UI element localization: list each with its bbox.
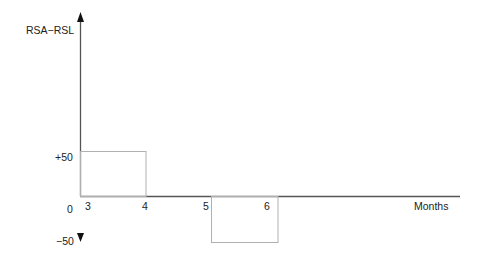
x-tick-5: 5 (203, 201, 209, 212)
positive-gap-box (81, 152, 147, 197)
x-axis-label: Months (414, 201, 448, 212)
up-arrow-icon (77, 12, 84, 22)
y-tick-pos50: +50 (55, 152, 73, 163)
y-tick-zero: 0 (67, 204, 73, 215)
down-arrow-icon (77, 233, 84, 242)
y-tick-neg50: −50 (56, 236, 74, 247)
x-tick-6: 6 (264, 201, 270, 212)
y-axis-label: RSA−RSL (26, 25, 74, 36)
gap-diagram (0, 0, 484, 261)
x-tick-4: 4 (142, 201, 148, 212)
x-tick-3: 3 (85, 201, 91, 212)
